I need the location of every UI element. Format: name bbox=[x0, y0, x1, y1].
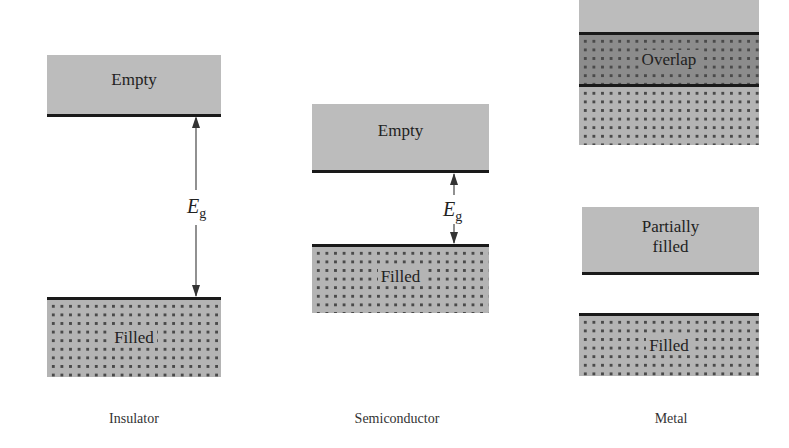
caption-insulator: Insulator bbox=[74, 411, 194, 427]
caption-metal: Metal bbox=[611, 411, 731, 427]
caption-semiconductor: Semiconductor bbox=[337, 411, 457, 427]
bandgap-arrows bbox=[0, 0, 789, 448]
